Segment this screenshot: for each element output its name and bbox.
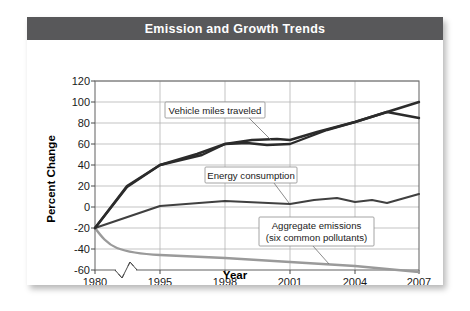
y-tick-label: 60 [78,138,90,150]
chart-title-bar: Emission and Growth Trends [27,17,443,40]
y-tick-label: 120 [72,75,90,87]
plot-area: 120 100 80 60 40 20 0 -20 -40 -60 Percen… [27,40,443,285]
y-axis-title: Percent Change [45,135,57,223]
y-tick-label: 20 [78,180,90,192]
annotation-label: Vehicle miles traveled [169,105,262,116]
y-tick-label: -40 [74,243,90,255]
y-tick-label: 40 [78,159,90,171]
annotation-aggregate-emissions: Aggregate emissions (six common pollutan… [259,217,374,264]
annotation-label-line2: (six common pollutants) [266,232,367,243]
y-axis-tickmarks [91,81,95,270]
y-tick-label: 80 [78,117,90,129]
x-axis-title-wrap: Year [27,265,443,283]
y-axis-tick-labels: 120 100 80 60 40 20 0 -20 -40 -60 [72,75,90,276]
y-tick-label: -20 [74,222,90,234]
annotation-energy-consumption: Energy consumption [205,167,297,203]
annotation-vehicle-miles-traveled: Vehicle miles traveled [165,102,271,140]
annotation-label-line1: Aggregate emissions [272,220,362,231]
x-axis-title: Year [223,269,247,281]
y-tick-label: 100 [72,96,90,108]
chart-card: Emission and Growth Trends 120 100 80 60… [27,17,443,285]
y-tick-label: 0 [84,201,90,213]
annotation-label: Energy consumption [207,170,294,181]
page-title: Emission and Growth Trends [145,22,326,36]
